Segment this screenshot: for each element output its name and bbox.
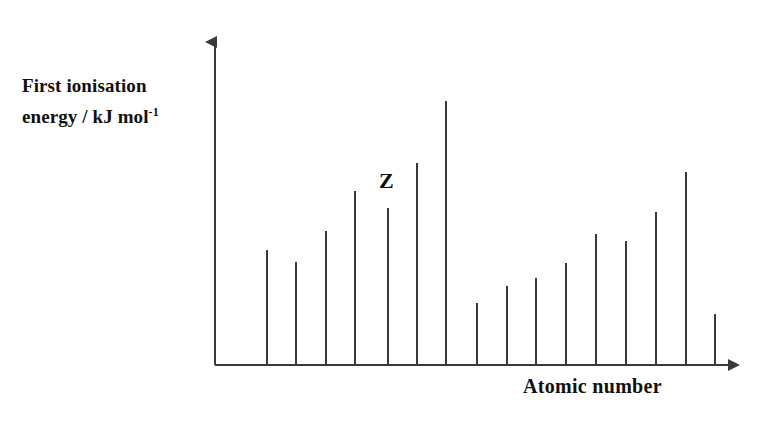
y-axis-label: First ionisationenergy / kJ mol-1 — [22, 72, 159, 130]
bar-group — [267, 101, 715, 365]
y-axis-label-line2: energy / kJ mol — [22, 106, 149, 127]
ionisation-energy-chart: First ionisationenergy / kJ mol-1 Atomic… — [0, 0, 766, 422]
x-axis-label: Atomic number — [523, 375, 662, 398]
y-axis-label-superscript: -1 — [149, 105, 159, 119]
annotation-z-label: Z — [379, 168, 394, 194]
y-axis-label-line1: First ionisation — [22, 75, 147, 96]
chart-svg — [0, 0, 766, 422]
